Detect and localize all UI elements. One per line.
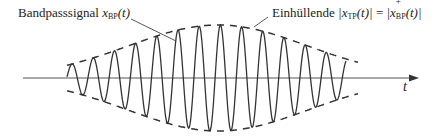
- envelope-label-pointer: [254, 17, 268, 27]
- bandpass-label-pointer: [131, 19, 176, 41]
- envelope-label: Einhüllende |xTP(t)| = |x+BP(t)|: [272, 5, 421, 21]
- time-axis-label: t: [403, 79, 407, 95]
- time-axis-arrow-icon: [409, 75, 419, 82]
- envelope-upper: [67, 25, 358, 65]
- envelope-rhs: |x+BP(t)|: [386, 5, 421, 20]
- envelope-lhs: |xTP(t)|: [338, 5, 373, 20]
- bandpass-signal-label: Bandpasssignal xBP(t): [18, 5, 130, 21]
- bandpass-signal-name: Bandpasssignal: [18, 5, 99, 20]
- bandpass-signal-symbol: xBP(t): [102, 5, 130, 20]
- envelope-equals: =: [376, 5, 383, 20]
- envelope-name: Einhüllende: [272, 5, 335, 20]
